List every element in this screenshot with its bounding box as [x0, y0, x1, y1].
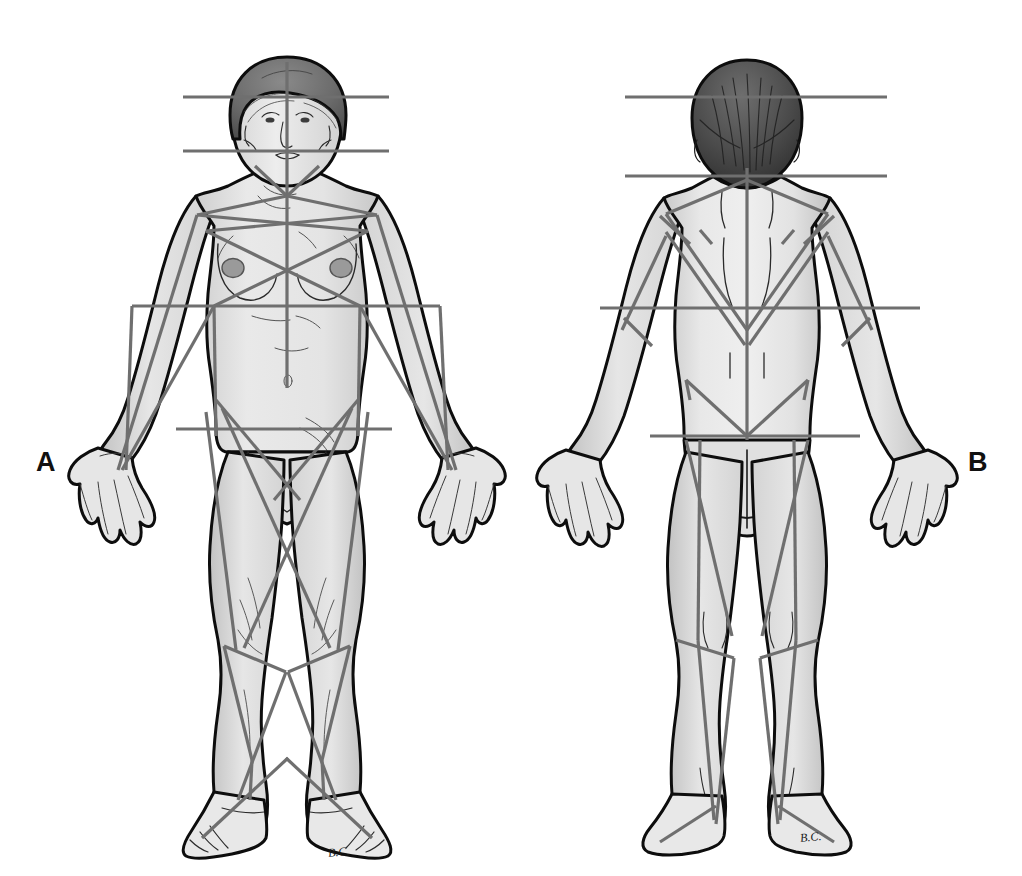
- posterior-thigh-vertical-left: [698, 440, 700, 640]
- posterior-left-hand: [537, 450, 623, 546]
- artist-signature-b: B.C.: [799, 829, 822, 846]
- panel-label-a: A: [36, 447, 56, 478]
- anterior-right-arm-line-outer: [377, 215, 456, 470]
- anterior-right-arm: [360, 196, 477, 462]
- anterior-left-hand: [69, 448, 155, 544]
- anterior-right-leg: [290, 452, 365, 822]
- anterior-ankle-line-left: [250, 760, 252, 800]
- anterior-left-foot: [183, 792, 267, 858]
- posterior-right-leg: [752, 452, 827, 824]
- anterior-right-hand: [419, 448, 505, 544]
- anterior-left-leg: [209, 452, 284, 822]
- anterior-trunk-side-right: [358, 306, 360, 436]
- artist-signature-a: B.C.: [327, 844, 350, 861]
- anterior-ankle-line-right: [322, 760, 324, 800]
- anterior-left-arm: [97, 196, 214, 462]
- anterior-trunk-side-left: [214, 306, 216, 436]
- anatomy-figure-canvas: [0, 0, 1022, 876]
- posterior-thigh-vertical-right: [794, 440, 796, 640]
- posterior-right-hand: [871, 450, 957, 546]
- panel-posterior: [537, 60, 958, 855]
- panel-label-b: B: [968, 447, 988, 478]
- panel-anterior: [69, 57, 506, 858]
